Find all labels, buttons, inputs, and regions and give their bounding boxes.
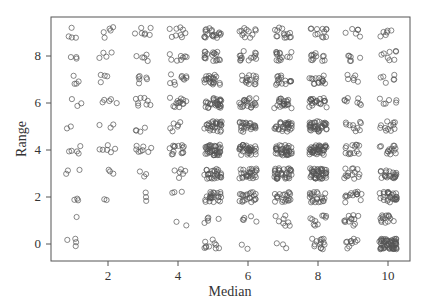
scatter-chart: 246810 02468 Median Range (0, 0, 433, 305)
data-point (343, 166, 348, 171)
y-axis: 02468 (35, 48, 52, 251)
data-point (169, 57, 174, 62)
x-axis: 246810 (105, 261, 395, 283)
y-tick-label: 2 (35, 189, 42, 204)
data-point (383, 80, 388, 85)
data-point (101, 30, 106, 35)
data-point (141, 144, 146, 149)
data-point (343, 200, 348, 205)
data-point (214, 242, 219, 247)
data-point (66, 34, 71, 39)
data-point (134, 54, 139, 59)
data-point (65, 237, 70, 242)
data-point (98, 80, 103, 85)
data-point (245, 246, 250, 251)
data-point (241, 49, 246, 54)
data-point (323, 191, 328, 196)
data-point (239, 242, 244, 247)
data-point (343, 30, 348, 35)
data-point (272, 199, 277, 204)
data-point (350, 26, 355, 31)
data-point (145, 58, 150, 63)
data-point (324, 105, 329, 110)
data-point (216, 216, 221, 221)
data-point (79, 101, 84, 106)
data-point (310, 217, 315, 222)
data-point (68, 55, 73, 60)
data-point (75, 103, 80, 108)
data-point (69, 25, 74, 30)
data-point (386, 98, 391, 103)
data-point (69, 97, 74, 102)
data-point (377, 96, 382, 101)
x-tick-label: 2 (105, 268, 112, 283)
data-point (109, 50, 114, 55)
data-point (132, 31, 137, 36)
data-point (76, 79, 81, 84)
data-point (77, 167, 82, 172)
data-point (274, 241, 279, 246)
data-point (344, 144, 349, 149)
data-point (179, 189, 184, 194)
x-tick-label: 6 (245, 268, 252, 283)
data-point (202, 172, 207, 177)
data-point (358, 55, 363, 60)
data-point (167, 95, 172, 100)
data-point (114, 101, 119, 106)
data-point (105, 143, 110, 148)
x-axis-title: Median (209, 284, 252, 299)
x-tick-label: 10 (382, 268, 395, 283)
data-point (387, 49, 392, 54)
data-point (146, 149, 151, 154)
data-point (351, 223, 356, 228)
data-point (113, 146, 118, 151)
x-tick-label: 8 (315, 268, 322, 283)
data-point (137, 169, 142, 174)
data-point (286, 220, 291, 225)
chart-svg: 246810 02468 Median Range (0, 0, 433, 305)
y-tick-label: 4 (35, 142, 42, 157)
data-point (97, 122, 102, 127)
y-tick-label: 0 (35, 236, 42, 251)
data-point (184, 223, 189, 228)
data-point (78, 144, 83, 149)
data-point (171, 104, 176, 109)
data-point (108, 125, 113, 130)
data-point (147, 32, 152, 37)
data-point (273, 214, 278, 219)
data-point (148, 102, 153, 107)
data-point (284, 246, 289, 251)
data-point (148, 25, 153, 30)
data-point (168, 72, 173, 77)
data-point (71, 73, 76, 78)
data-point (378, 34, 383, 39)
data-point (111, 122, 116, 127)
data-point (289, 50, 294, 55)
y-tick-label: 8 (35, 48, 42, 63)
data-point (318, 246, 323, 251)
data-point (167, 52, 172, 57)
data-point (314, 27, 319, 32)
data-point (391, 219, 396, 224)
data-point (280, 26, 285, 31)
data-point (176, 175, 181, 180)
data-point (102, 35, 107, 40)
data-point (142, 125, 147, 130)
data-point (74, 240, 79, 245)
data-point (167, 26, 172, 31)
data-point (142, 95, 147, 100)
data-point (144, 198, 149, 203)
y-axis-title: Range (14, 121, 29, 157)
data-point (139, 25, 144, 30)
data-point (272, 106, 277, 111)
data-point (74, 214, 79, 219)
data-point (276, 219, 281, 224)
data-point (392, 57, 397, 62)
data-point (174, 219, 179, 224)
data-point (104, 54, 109, 59)
data-point (172, 168, 177, 173)
data-point (385, 119, 390, 124)
data-point (134, 143, 139, 148)
data-point (254, 219, 259, 224)
data-point (310, 236, 315, 241)
